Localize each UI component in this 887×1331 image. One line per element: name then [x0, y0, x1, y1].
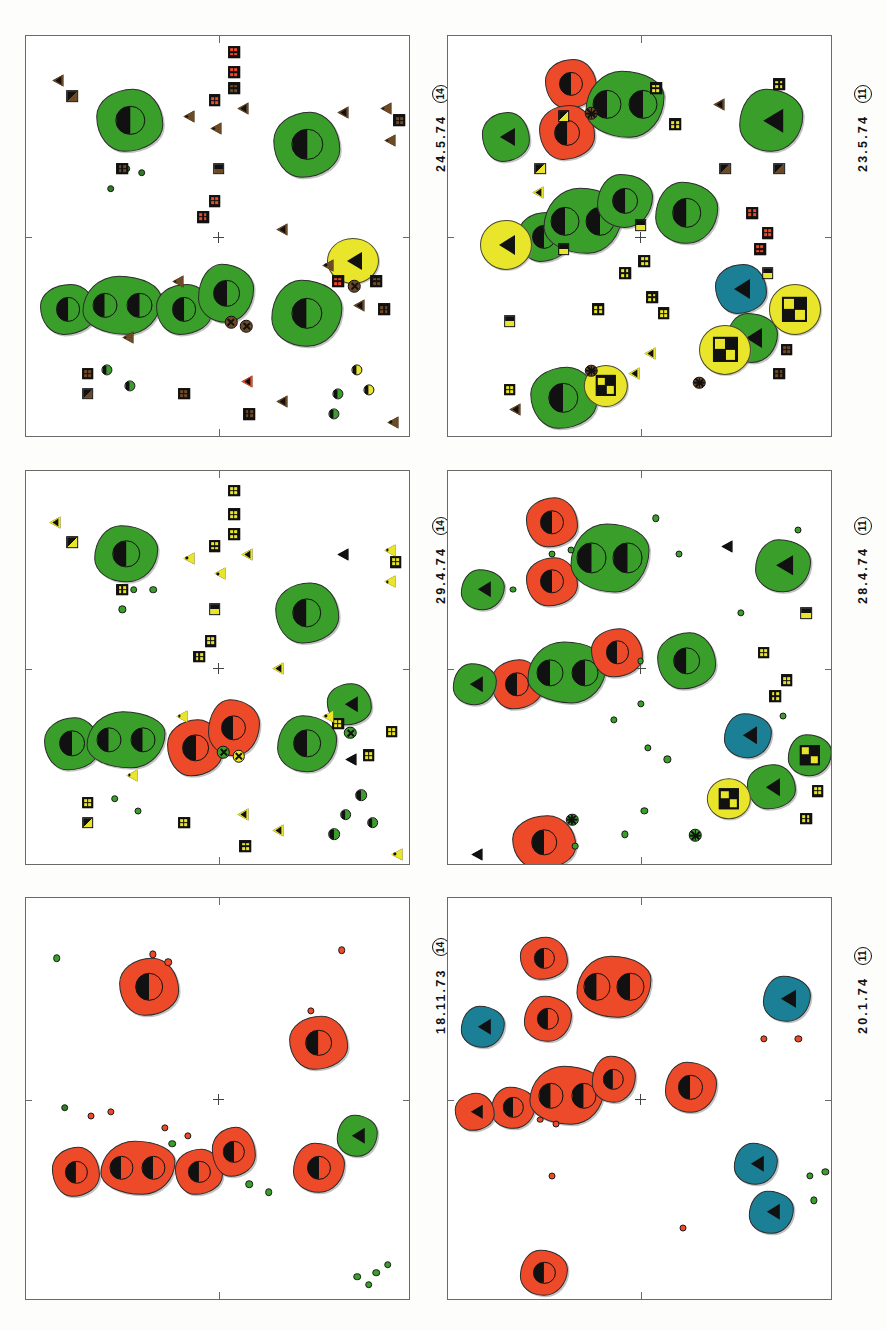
grid-cell	[230, 535, 233, 538]
grid-cell	[715, 339, 725, 349]
center-cross-marker	[213, 232, 224, 243]
grid-cell	[235, 89, 238, 92]
grid-cell	[230, 491, 233, 494]
halfmoon-core	[549, 383, 579, 413]
solid-dot	[652, 515, 659, 522]
grid-square-icon	[205, 635, 217, 647]
grid-cell	[230, 487, 233, 490]
grid-cell	[657, 89, 660, 92]
grid-cell	[211, 641, 214, 644]
grid-cell	[211, 543, 214, 546]
triangle-inner	[353, 301, 362, 309]
grid-cell	[184, 390, 187, 393]
grid-cell	[88, 374, 91, 377]
grid-cell	[211, 197, 214, 200]
solid-dot	[165, 959, 173, 967]
grid-square-icon	[812, 785, 824, 797]
solid-dot	[510, 586, 517, 593]
triangle-right-icon	[47, 517, 58, 528]
cross-circle	[217, 746, 228, 757]
tick-right	[403, 237, 409, 238]
cross-circle-icon	[348, 280, 361, 293]
grid-cell	[807, 819, 810, 822]
colony-blob	[655, 182, 719, 244]
halfmoon-core	[577, 543, 607, 573]
solid-dot	[107, 1108, 114, 1115]
half-square-icon	[213, 163, 225, 175]
grid-cell	[369, 752, 372, 755]
grid-cell	[676, 121, 679, 124]
grid-cell	[230, 53, 233, 56]
triangle-left-icon	[496, 235, 515, 255]
halfmoon-core	[96, 727, 121, 752]
solid-dot	[130, 586, 138, 594]
diagonal-square-icon	[82, 817, 94, 829]
triangle-left-icon	[731, 279, 750, 299]
halfmoon-core	[56, 297, 80, 321]
solid-dot	[138, 169, 146, 177]
tick-left	[448, 237, 454, 238]
solid-dot	[552, 1120, 559, 1127]
solid-dot	[107, 185, 115, 193]
triangle-dot-icon	[182, 552, 193, 563]
triangle-right-icon	[336, 548, 347, 559]
triangle-inner	[241, 378, 250, 386]
grid-cell	[802, 756, 809, 763]
triangle-right-icon	[531, 187, 542, 198]
grid-cell	[776, 374, 779, 377]
triangle-dot-icon	[213, 568, 224, 579]
grid-cell	[119, 590, 122, 593]
cross-circle	[348, 280, 359, 291]
grid-cell	[180, 390, 183, 393]
grid-cell	[235, 531, 238, 534]
grid-cell	[338, 720, 341, 723]
grid-cell	[84, 374, 87, 377]
diagonal-square-icon	[82, 388, 94, 400]
grid-square-icon	[228, 46, 240, 58]
halfmoon-core	[534, 948, 555, 969]
triangle-inner	[241, 550, 250, 558]
cross-circle-icon	[240, 320, 253, 333]
halo-symbol	[707, 778, 751, 820]
grid-square-icon	[650, 82, 662, 94]
halfmoon-core	[112, 540, 139, 567]
grid-cell	[369, 756, 372, 759]
half-square-icon	[209, 603, 221, 615]
grid-cell	[334, 724, 337, 727]
colony-blob	[100, 1141, 175, 1195]
solid-dot	[637, 700, 644, 707]
triangle-inner	[272, 664, 281, 672]
grid-cell	[760, 250, 763, 253]
grid-cell	[764, 653, 767, 656]
cross-circle	[344, 726, 355, 737]
grid-cell	[649, 294, 652, 297]
halfmoon-core	[672, 198, 702, 228]
solid-dot	[806, 1172, 813, 1179]
colony-blob	[763, 976, 811, 1022]
grid-square-icon	[82, 797, 94, 809]
panel-p-28-4-74	[447, 470, 832, 865]
halo-symbol	[699, 324, 751, 374]
halfmoon-core	[293, 730, 320, 757]
cross-circle-icon	[344, 726, 357, 739]
grid-square-icon	[209, 94, 221, 106]
solid-dot	[373, 1269, 381, 1277]
grid-cell	[392, 558, 395, 561]
asterisk-circle-icon	[689, 829, 702, 842]
triangle-dot-icon	[209, 123, 220, 134]
halo-symbol	[768, 284, 820, 334]
solid-dot	[779, 712, 786, 719]
split-circle	[328, 829, 340, 841]
solid-dot	[365, 1281, 373, 1289]
grid-cell	[180, 819, 183, 822]
panel-date: 28.4.74	[856, 547, 870, 604]
halfmoon-core	[291, 298, 323, 330]
grid-cell	[211, 637, 214, 640]
solid-dot	[88, 1112, 95, 1119]
grid-cell	[184, 394, 187, 397]
grid-cell	[235, 73, 238, 76]
tick-bottom	[641, 857, 642, 864]
grid-cell	[784, 299, 794, 309]
grid-cell	[753, 209, 756, 212]
cross-circle	[240, 320, 251, 331]
